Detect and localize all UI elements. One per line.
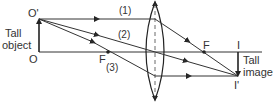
label-image-base: I [237,40,240,51]
label-focus-left: F [99,54,106,65]
label-object-base: O [29,54,38,65]
label-focus-right: F [203,40,210,51]
ray-2-incident [39,19,97,35]
ray-1-refracted-b [186,40,238,76]
focus-left-dot [106,50,110,54]
label-ray-2: (2) [118,30,130,40]
ray-2-b [95,35,186,62]
label-object-top: O' [28,8,39,19]
label-image-top: I' [234,80,239,91]
label-image-caption-2: image [243,67,273,78]
label-object-caption-2: object [2,40,31,51]
label-ray-3: (3) [106,63,118,73]
ray-1-refracted [155,19,188,41]
ray-diagram [0,0,274,104]
label-ray-1: (1) [119,6,131,16]
ray-2-c [184,61,238,77]
ray-3-incident [39,19,93,42]
label-image-caption-1: Tall [243,55,260,66]
label-object-caption-1: Tall [5,28,22,39]
convex-lens [146,2,164,100]
